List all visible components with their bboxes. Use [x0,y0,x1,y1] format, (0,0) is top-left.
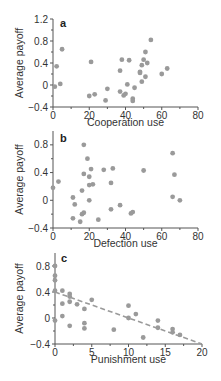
data-point [145,61,150,66]
data-point [126,316,131,321]
data-point [53,264,58,269]
x-tick-label: 80 [192,110,204,121]
data-point [177,198,182,203]
data-point [148,38,153,43]
data-point [141,57,146,62]
y-tick-label: 0.8 [34,139,48,150]
data-point [53,273,58,278]
data-point [118,89,123,94]
data-point [118,203,123,208]
x-axis-label: Defection use [93,237,157,249]
data-point [127,58,132,63]
x-tick-label: 20 [196,347,208,358]
data-point [82,326,87,331]
data-point [67,299,72,304]
y-tick-label: 0.4 [34,167,48,178]
y-tick-label: −0.4 [28,223,48,234]
data-point [105,86,110,91]
data-point [130,99,135,104]
data-point [101,167,106,172]
x-tick-label: 0 [50,231,56,242]
data-point [82,307,87,312]
data-point [52,84,57,89]
y-axis-label: Average payoff [13,28,25,98]
data-point [119,57,124,62]
data-point [141,168,146,173]
y-tick-label: 0.4 [34,58,48,69]
data-point [133,312,138,317]
x-axis-label: Punishment use [91,353,166,365]
data-point [75,302,80,307]
data-point [143,50,148,55]
x-tick-label: 60 [156,231,168,242]
data-point [90,182,95,187]
y-tick-label: −0.4 [28,102,48,113]
data-point [126,303,131,308]
data-point [165,66,170,71]
y-axis-label: Average payoff [13,144,25,214]
data-point [72,202,77,207]
y-tick-label: 0.8 [34,36,48,47]
data-point [109,181,114,186]
data-point [60,47,65,52]
data-point [89,60,94,65]
data-point [110,166,115,171]
data-point [71,216,76,221]
data-point [85,156,90,161]
y-axis-label: Average payoff [13,263,25,333]
data-point [81,142,86,147]
data-point [53,278,58,283]
data-point [103,98,108,103]
data-point [67,294,72,299]
data-point [71,195,76,200]
data-point [53,318,58,323]
panel-label: a [60,17,67,29]
data-point [143,74,148,79]
data-point [67,323,72,328]
panel-a: −0.400.40.81.2020406080aCooperation useA… [13,14,204,129]
x-tick-label: 0 [50,110,56,121]
data-point [87,198,92,203]
data-point [111,327,116,332]
figure: −0.400.40.81.2020406080aCooperation useA… [0,0,221,381]
data-point [60,288,65,293]
data-point [130,210,135,215]
data-point [170,151,175,156]
data-point [89,167,94,172]
data-point [141,335,146,340]
data-point [123,91,128,96]
data-point [118,68,123,73]
panel-label: b [60,132,67,144]
data-point [139,79,144,84]
data-point [81,172,86,177]
data-point [87,174,92,179]
data-point [60,301,65,306]
data-point [156,325,161,330]
data-point [60,314,65,319]
data-point [82,321,87,326]
data-point [89,297,94,302]
data-point [139,63,144,68]
data-point [96,217,101,222]
data-point [53,288,58,293]
data-point [87,94,92,99]
y-tick-label: 1.2 [34,14,48,25]
data-point [170,194,175,199]
y-tick-label: 0 [42,80,48,91]
data-point [81,210,86,215]
y-tick-label: −0.4 [30,339,50,350]
data-point [178,333,183,338]
data-point [54,64,59,69]
x-axis-label: Cooperation use [87,116,164,128]
data-point [159,72,164,77]
y-tick-label: 0.4 [36,287,50,298]
data-point [172,172,177,177]
data-point [51,185,56,190]
x-tick-label: 80 [192,231,204,242]
data-point [78,219,83,224]
y-tick-label: 0 [44,313,50,324]
data-point [170,330,175,335]
data-point [125,82,130,87]
data-point [109,207,114,212]
panel-b: −0.400.40.8020406080bDefection useAverag… [13,131,204,249]
